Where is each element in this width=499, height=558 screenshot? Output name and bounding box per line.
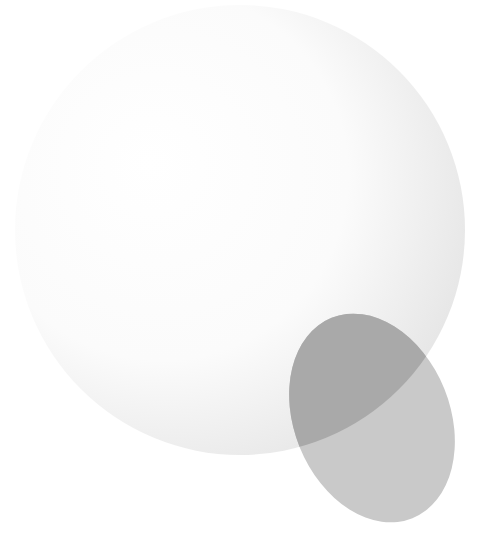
decorative-graphic <box>0 0 499 558</box>
overlapping-shapes-illustration <box>0 0 499 558</box>
